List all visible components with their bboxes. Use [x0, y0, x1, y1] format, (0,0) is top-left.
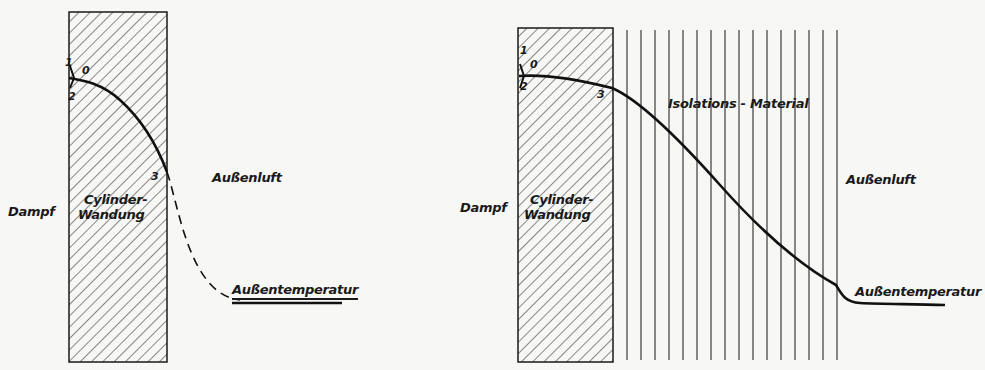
- right-label-wall-1: Cylinder-: [530, 192, 593, 207]
- left-label-wall-1: Cylinder-: [84, 192, 147, 207]
- left-point-2: 2: [68, 90, 76, 103]
- right-point-0: 0: [530, 58, 538, 71]
- left-point-0: 0: [82, 64, 90, 77]
- left-label-wall-2: Wandung: [78, 207, 145, 222]
- diagram-canvas: [0, 0, 985, 370]
- right-point-1: 1: [520, 44, 528, 57]
- right-label-outside-air: Außenluft: [846, 172, 916, 187]
- right-point-2: 2: [520, 80, 528, 93]
- right-label-steam: Dampf: [460, 200, 507, 215]
- right-label-wall-2: Wandung: [524, 207, 591, 222]
- left-point-3: 3: [151, 170, 159, 183]
- right-label-insulation: Isolations - Material: [668, 96, 808, 111]
- right-point-3: 3: [597, 88, 605, 101]
- left-temperature-curve-dashed: [167, 172, 240, 300]
- left-label-outside-temp: Außentemperatur: [232, 282, 358, 300]
- right-insulation: [627, 30, 837, 360]
- left-point-1: 1: [65, 56, 73, 69]
- right-label-outside-temp: Außentemperatur: [855, 284, 981, 299]
- left-label-steam: Dampf: [8, 204, 55, 219]
- left-label-outside-air: Außenluft: [212, 170, 282, 185]
